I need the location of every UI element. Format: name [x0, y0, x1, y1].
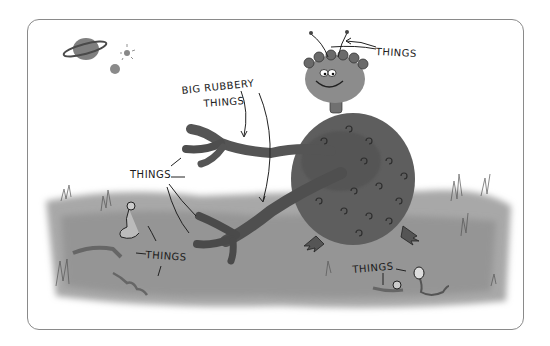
star-icon	[120, 44, 135, 60]
illustration-canvas	[28, 20, 523, 329]
moon-icon	[110, 64, 120, 74]
label-fingers-things: THINGS	[130, 169, 171, 180]
planet-icon	[62, 38, 107, 60]
grass-field	[46, 174, 511, 308]
label-antennae-things: THINGS	[375, 46, 417, 59]
illustration-frame: BIG RUBBERY THINGS THINGS THINGS THINGS …	[27, 19, 524, 330]
creature	[291, 30, 419, 252]
